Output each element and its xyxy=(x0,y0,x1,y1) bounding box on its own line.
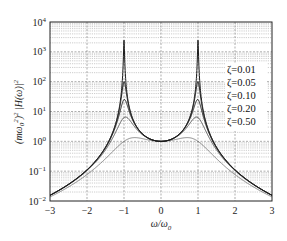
y-axis-label: (mω02)2 |H(ω)|2 xyxy=(12,80,26,144)
x-tick-label: 2 xyxy=(233,205,238,216)
y-tick-label: 103 xyxy=(33,45,47,57)
chart: −3−2−10123 10410310210110010−110−2 ω/ω0 … xyxy=(0,0,287,241)
legend-entry: ζ=0.05 xyxy=(227,77,256,89)
x-tick-label: −1 xyxy=(119,205,130,216)
legend-entry: ζ=0.50 xyxy=(227,116,256,128)
x-tick-label: −2 xyxy=(82,205,93,216)
x-axis-ticks: −3−2−10123 xyxy=(45,205,275,216)
legend-entry: ζ=0.20 xyxy=(227,103,256,115)
x-axis-label: ω/ω0 xyxy=(151,218,172,232)
y-tick-label: 102 xyxy=(33,75,47,87)
y-tick-label: 104 xyxy=(33,16,47,28)
legend: ζ=0.01 ζ=0.05 ζ=0.10 ζ=0.20 ζ=0.50 xyxy=(225,63,267,131)
y-tick-label: 100 xyxy=(33,135,47,147)
y-axis-ticks: 10410310210110010−110−2 xyxy=(29,16,47,207)
y-tick-label: 10−1 xyxy=(29,165,47,177)
x-tick-label: 0 xyxy=(159,205,164,216)
x-tick-label: −3 xyxy=(45,205,56,216)
y-tick-label: 101 xyxy=(33,105,47,117)
x-tick-label: 1 xyxy=(196,205,201,216)
legend-entry: ζ=0.01 xyxy=(227,64,256,76)
legend-entry: ζ=0.10 xyxy=(227,90,256,102)
x-tick-label: 3 xyxy=(270,205,275,216)
